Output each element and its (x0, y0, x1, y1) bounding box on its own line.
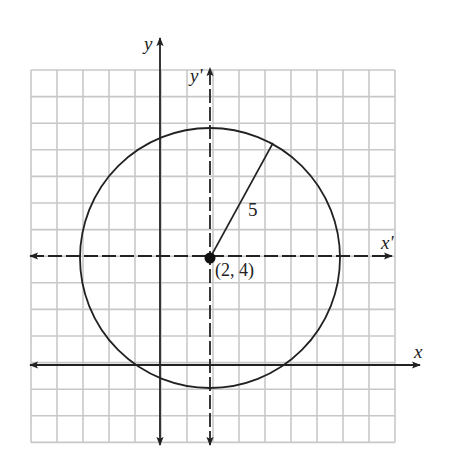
coordinate-diagram: y y' x' x 5 (2, 4) (0, 0, 452, 475)
radius-label: 5 (248, 199, 258, 220)
x-axis-label: x (413, 341, 423, 362)
y-axis-label: y (142, 33, 153, 54)
x-prime-axis-label: x' (380, 232, 394, 253)
center-point (205, 253, 216, 264)
radius-segment (210, 143, 273, 258)
center-label: (2, 4) (215, 260, 254, 281)
y-prime-axis-label: y' (188, 65, 203, 86)
